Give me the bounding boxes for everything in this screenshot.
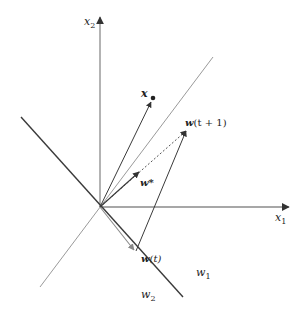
w-star-label: w* (140, 177, 155, 188)
x-vector-label: x (140, 87, 148, 100)
perceptron-diagram: x2 x1 x w(t + 1) w* w(t) w1 w2 (0, 0, 303, 318)
x-point (151, 96, 156, 101)
w-t1-label: w(t + 1) (185, 117, 227, 128)
w-t-vector (100, 207, 134, 250)
x-vector (100, 102, 151, 207)
x1-axis-label: x1 (275, 211, 286, 226)
w-star-vector (100, 172, 139, 207)
w-t-label: w(t) (141, 253, 162, 264)
perpendicular-line (40, 57, 213, 287)
region-w2-label: w2 (141, 288, 156, 303)
region-w1-label: w1 (196, 266, 211, 281)
x2-axis-label: x2 (84, 15, 95, 30)
